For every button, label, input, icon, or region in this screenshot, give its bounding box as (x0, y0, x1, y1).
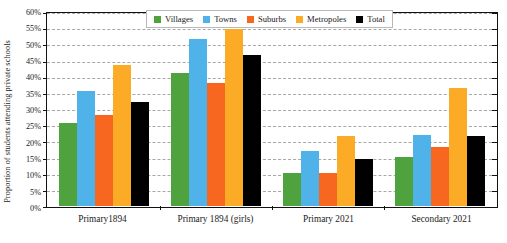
y-tick-mark-right (492, 78, 497, 79)
x-tick-label: Primary 2021 (272, 214, 385, 224)
y-tick-mark (43, 62, 47, 63)
bars (59, 13, 149, 206)
bar-villages[interactable] (395, 157, 413, 205)
bar-metropoles[interactable] (225, 29, 243, 205)
y-tick-mark-right (492, 159, 497, 160)
bar-towns[interactable] (301, 151, 319, 206)
bar-villages[interactable] (59, 123, 77, 206)
y-tick-mark-right (492, 29, 497, 30)
y-tick-label: 45% (26, 57, 41, 66)
bar-chart: Proportion of students attending private… (0, 0, 507, 243)
bar-suburbs[interactable] (95, 115, 113, 206)
legend: VillagesTownsSuburbsMetropolesTotal (146, 10, 393, 28)
y-tick-label: 20% (26, 138, 41, 147)
bar-group (272, 13, 384, 206)
y-tick-label: 50% (26, 40, 41, 49)
bar-villages[interactable] (171, 73, 189, 206)
plot-area (46, 12, 498, 208)
y-tick-mark (43, 142, 47, 143)
bar-group (48, 13, 160, 206)
legend-swatch-icon (203, 16, 210, 23)
x-axis-separator (384, 206, 385, 210)
y-tick-label: 15% (26, 155, 41, 164)
legend-swatch-icon (296, 16, 303, 23)
y-tick-mark (43, 13, 47, 14)
y-axis-tick-labels: 60%55%50%45%40%35%30%25%20%15%10%5%0% (14, 12, 44, 208)
y-tick-label: 35% (26, 89, 41, 98)
y-tick-label: 5% (30, 187, 41, 196)
legend-label: Metropoles (307, 14, 346, 24)
bar-group (384, 13, 496, 206)
x-axis-tick-labels: Primary1894Primary 1894 (girls)Primary 2… (46, 214, 498, 224)
bar-towns[interactable] (77, 91, 95, 206)
x-axis-separator (272, 206, 273, 210)
legend-swatch-icon (356, 16, 363, 23)
y-tick-mark (43, 207, 47, 208)
bar-villages[interactable] (283, 173, 301, 205)
bar-total[interactable] (243, 55, 261, 205)
x-tick-label: Secondary 2021 (385, 214, 498, 224)
legend-label: Total (367, 14, 385, 24)
y-tick-label: 60% (26, 8, 41, 17)
bar-towns[interactable] (189, 39, 207, 205)
legend-swatch-icon (247, 16, 254, 23)
y-tick-mark (43, 175, 47, 176)
y-tick-mark (43, 78, 47, 79)
bar-suburbs[interactable] (319, 173, 337, 206)
y-tick-mark (43, 126, 47, 127)
y-tick-mark (43, 191, 47, 192)
bar-groups (48, 13, 496, 206)
y-tick-mark-right (492, 207, 497, 208)
bar-metropoles[interactable] (337, 136, 355, 206)
legend-label: Villages (165, 14, 193, 24)
y-tick-mark-right (492, 191, 497, 192)
y-tick-mark-right (492, 94, 497, 95)
legend-label: Suburbs (258, 14, 286, 24)
x-axis-separator (160, 206, 161, 210)
y-tick-label: 55% (26, 24, 41, 33)
y-tick-mark (43, 110, 47, 111)
legend-item-towns[interactable]: Towns (203, 14, 237, 24)
y-tick-mark-right (492, 110, 497, 111)
bar-group (160, 13, 272, 206)
x-tick-label: Primary1894 (46, 214, 159, 224)
y-tick-mark (43, 45, 47, 46)
legend-item-total[interactable]: Total (356, 14, 385, 24)
bar-total[interactable] (131, 102, 149, 206)
y-tick-mark-right (492, 62, 497, 63)
y-tick-mark (43, 159, 47, 160)
bars (283, 13, 373, 206)
y-tick-label: 0% (30, 204, 41, 213)
legend-item-metropoles[interactable]: Metropoles (296, 14, 346, 24)
legend-label: Towns (214, 14, 237, 24)
y-tick-mark-right (492, 142, 497, 143)
bar-suburbs[interactable] (431, 147, 449, 205)
bar-metropoles[interactable] (449, 88, 467, 205)
y-tick-label: 25% (26, 122, 41, 131)
y-axis-title: Proportion of students attending private… (0, 0, 14, 243)
bars (171, 13, 261, 206)
y-tick-mark (43, 94, 47, 95)
legend-item-villages[interactable]: Villages (154, 14, 193, 24)
x-tick-label: Primary 1894 (girls) (159, 214, 272, 224)
y-tick-mark-right (492, 45, 497, 46)
bar-metropoles[interactable] (113, 65, 131, 205)
bar-total[interactable] (355, 159, 373, 206)
bars (395, 13, 485, 206)
legend-item-suburbs[interactable]: Suburbs (247, 14, 286, 24)
bar-total[interactable] (467, 136, 485, 206)
legend-swatch-icon (154, 16, 161, 23)
bar-towns[interactable] (413, 135, 431, 206)
y-tick-label: 40% (26, 73, 41, 82)
y-tick-mark-right (492, 175, 497, 176)
bar-suburbs[interactable] (207, 83, 225, 206)
y-tick-mark (43, 29, 47, 30)
y-tick-mark-right (492, 126, 497, 127)
y-tick-mark-right (492, 13, 497, 14)
y-tick-label: 30% (26, 106, 41, 115)
y-tick-label: 10% (26, 171, 41, 180)
